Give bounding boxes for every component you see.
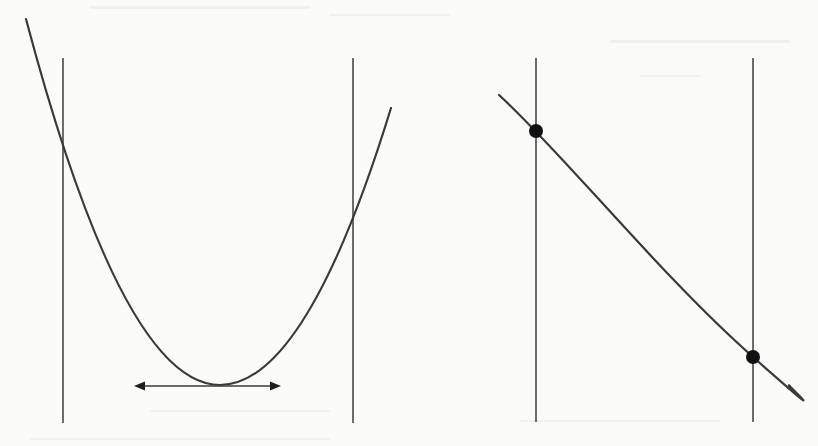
diagram-svg bbox=[0, 0, 818, 446]
left-panel bbox=[26, 19, 391, 423]
tangent-arrow-left-head-icon bbox=[134, 382, 145, 391]
parabola-curve bbox=[26, 19, 391, 385]
right-endpoint-dot bbox=[746, 350, 760, 364]
left-endpoint-dot bbox=[529, 124, 543, 138]
right-panel bbox=[499, 58, 803, 422]
tangent-arrow-right-head-icon bbox=[270, 382, 281, 391]
scan-texture bbox=[30, 6, 790, 440]
diagram-canvas bbox=[0, 0, 818, 446]
